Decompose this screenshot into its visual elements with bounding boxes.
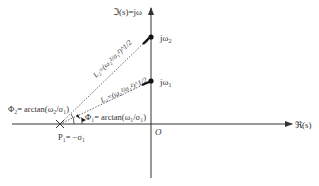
point-jw1-label: jω1 <box>159 77 171 88</box>
point-jw1 <box>148 78 153 83</box>
pole-label: P₁= −σ₁ <box>58 132 85 142</box>
point-jw2 <box>148 34 153 39</box>
phi1-label: Φ₁= arctan(ω₁/σ₁) <box>85 112 146 122</box>
real-axis-label: ℜ(s) <box>295 120 312 130</box>
pole-zero-diagram: ℑ(s)=jω ℜ(s) O jω2 jω1 L₂=(ω₂²/σ₁²)^1/2 … <box>0 0 319 186</box>
imag-axis-label: ℑ(s)=jω <box>113 7 142 17</box>
origin-label: O <box>155 127 162 137</box>
point-jw2-label: jω2 <box>159 33 171 44</box>
diagram-svg: ℑ(s)=jω ℜ(s) O jω2 jω1 L₂=(ω₂²/σ₁²)^1/2 … <box>0 0 319 186</box>
angle-arc-phi1 <box>81 117 82 124</box>
phi2-label: Φ₂= arctan(ω₂/σ₁) <box>8 104 69 114</box>
